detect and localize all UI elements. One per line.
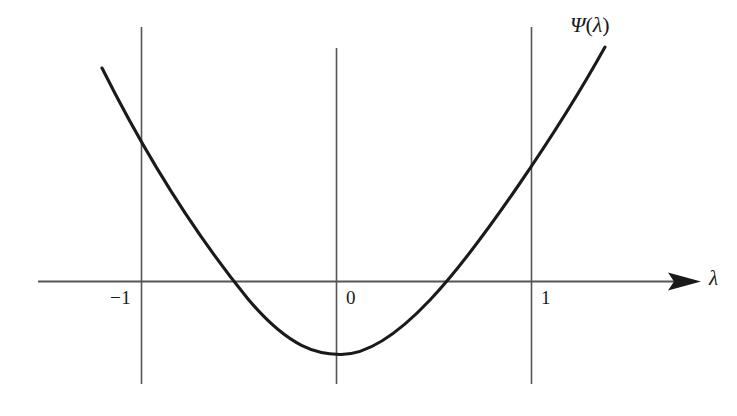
figure-canvas: −1 0 1 Ψ(λ) λ bbox=[0, 0, 737, 416]
function-label-open-paren: ( bbox=[585, 12, 592, 37]
function-label-close-paren: ) bbox=[602, 12, 609, 37]
plot-area bbox=[0, 0, 737, 416]
parabola-curve bbox=[102, 47, 605, 355]
xtick-label-minus-one: −1 bbox=[110, 288, 131, 307]
xtick-label-one: 1 bbox=[541, 288, 551, 307]
function-label-lambda: λ bbox=[593, 12, 603, 37]
xaxis-variable-label: λ bbox=[709, 268, 718, 289]
xtick-label-zero: 0 bbox=[346, 288, 356, 307]
function-label-psi: Ψ bbox=[570, 12, 585, 37]
function-label: Ψ(λ) bbox=[570, 14, 610, 36]
